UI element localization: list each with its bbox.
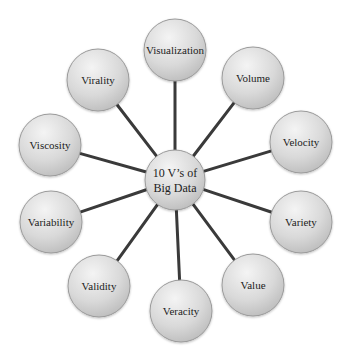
- node-label-value: Value: [240, 279, 265, 291]
- hub-label-line1: 10 V’s of: [153, 166, 197, 180]
- node-variability: Variability: [20, 191, 82, 253]
- spoke-volume: [192, 102, 235, 158]
- node-volume: Volume: [222, 47, 284, 109]
- node-velocity: Velocity: [270, 111, 332, 173]
- spoke-value: [192, 202, 235, 260]
- hub-node: 10 V’s of Big Data: [145, 150, 205, 210]
- spoke-variability: [79, 189, 148, 212]
- node-label-variety: Variety: [285, 216, 317, 228]
- node-label-velocity: Velocity: [283, 136, 320, 148]
- node-label-veracity: Veracity: [163, 305, 200, 317]
- node-validity: Validity: [68, 255, 130, 317]
- hub-label-line2: Big Data: [154, 181, 198, 195]
- node-label-validity: Validity: [82, 280, 117, 292]
- node-variety: Variety: [270, 191, 332, 253]
- spoke-virality: [116, 104, 158, 158]
- node-value: Value: [222, 254, 284, 316]
- spoke-veracity: [176, 208, 179, 281]
- node-viscosity: Viscosity: [19, 114, 81, 176]
- spoke-variety: [202, 189, 273, 213]
- node-label-variability: Variability: [28, 216, 75, 228]
- spoke-viscosity: [79, 153, 148, 172]
- hub-circle: [145, 150, 205, 210]
- node-label-visualization: Visualization: [146, 44, 204, 56]
- node-virality: Virality: [67, 49, 129, 111]
- big-data-diagram: VisualizationVolumeVelocityVarietyValueV…: [0, 0, 351, 360]
- spoke-velocity: [202, 151, 272, 172]
- node-label-virality: Virality: [81, 74, 115, 86]
- node-label-volume: Volume: [236, 72, 270, 84]
- spoke-validity: [116, 203, 158, 262]
- node-label-viscosity: Viscosity: [30, 139, 71, 151]
- node-veracity: Veracity: [150, 280, 212, 342]
- node-visualization: Visualization: [144, 19, 206, 81]
